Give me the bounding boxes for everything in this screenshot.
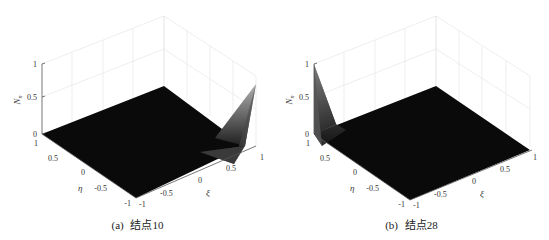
xi-axis-label: ξ <box>480 189 484 199</box>
z-tick-0: 0 <box>305 130 309 139</box>
xi-tick-0: 0 <box>472 177 476 186</box>
eta-tick--0.5: -0.5 <box>366 184 379 193</box>
eta-tick-0: 0 <box>81 168 85 177</box>
z-tick-0.5: 0.5 <box>299 93 309 102</box>
surface-plane <box>42 86 245 198</box>
xi-tick--0.5: -0.5 <box>434 190 447 199</box>
caption-b: (b) 结点28 <box>274 216 549 232</box>
eta-tick--0.5: -0.5 <box>94 184 107 193</box>
panel-b: 1 0.5 0 Nn 1 0.5 0 -0.5 -1 η -1 -0.5 0 0… <box>274 0 549 240</box>
z-axis-label: Nn <box>284 95 295 105</box>
z-axis <box>42 63 45 134</box>
caption-a-label: (a) <box>112 219 124 231</box>
z-tick-1: 1 <box>305 60 309 69</box>
surface-plot-a: 1 0.5 0 Nn 1 0.5 0 -0.5 -1 η -1 -0.5 0 0… <box>0 0 275 240</box>
eta-tick--1: -1 <box>398 200 405 209</box>
xi-tick--1: -1 <box>139 200 146 209</box>
surface-plane <box>314 86 530 200</box>
xi-axis-label: ξ <box>206 188 210 198</box>
eta-axis-label: η <box>350 183 355 193</box>
caption-a: (a) 结点10 <box>0 216 275 232</box>
z-tick-0.5: 0.5 <box>27 93 37 102</box>
eta-tick-0.5: 0.5 <box>48 154 58 163</box>
panel-a: 1 0.5 0 Nn 1 0.5 0 -0.5 -1 η -1 -0.5 0 0… <box>0 0 275 240</box>
xi-tick-0.5: 0.5 <box>500 165 510 174</box>
surface-plot-b: 1 0.5 0 Nn 1 0.5 0 -0.5 -1 η -1 -0.5 0 0… <box>274 0 549 240</box>
caption-a-text: 结点10 <box>130 219 163 231</box>
xi-tick-1: 1 <box>260 153 264 162</box>
z-axis-label: Nn <box>12 95 23 105</box>
eta-axis-label: η <box>78 183 83 193</box>
xi-tick-1: 1 <box>533 153 537 162</box>
z-tick-1: 1 <box>33 60 37 69</box>
xi-tick--0.5: -0.5 <box>160 189 173 198</box>
xi-tick-0.5: 0.5 <box>226 164 236 173</box>
eta-tick-0.5: 0.5 <box>320 154 330 163</box>
eta-tick-0: 0 <box>353 168 357 177</box>
eta-tick-1: 1 <box>306 139 310 148</box>
eta-tick--1: -1 <box>124 199 131 208</box>
z-tick-0: 0 <box>33 130 37 139</box>
caption-b-text: 结点28 <box>405 219 438 231</box>
xi-tick--1: -1 <box>413 201 420 210</box>
xi-tick-0: 0 <box>198 176 202 185</box>
caption-b-label: (b) <box>385 219 398 231</box>
eta-tick-1: 1 <box>34 139 38 148</box>
